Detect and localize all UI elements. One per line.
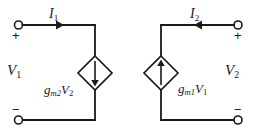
right-source-control-subscript: 1	[203, 87, 207, 97]
left-source-control-symbol: V	[61, 82, 69, 97]
left-voltage-symbol: V	[7, 62, 16, 78]
right-dependent-source-label: gm1V1	[178, 82, 207, 97]
left-port-minus-sign: −	[12, 103, 20, 116]
left-port-group	[15, 21, 113, 125]
right-source-control-symbol: V	[195, 81, 203, 96]
right-voltage-subscript: 2	[234, 69, 239, 80]
right-current-label: I2	[190, 7, 199, 23]
right-current-subscript: 2	[195, 13, 200, 23]
left-source-control-subscript: 2	[69, 88, 73, 98]
left-port-voltage-label: V1	[7, 63, 21, 80]
left-port-plus-sign: +	[12, 29, 20, 42]
right-port-voltage-label: V2	[225, 63, 239, 80]
right-port-plus-sign: +	[234, 29, 242, 42]
right-port-minus-sign: −	[234, 103, 242, 116]
circuit-schematic-canvas	[0, 0, 257, 138]
left-current-label: I1	[49, 7, 58, 23]
right-bottom-terminal-icon	[234, 116, 242, 124]
left-voltage-subscript: 1	[16, 69, 21, 80]
right-source-gain-subscript: m1	[185, 87, 195, 97]
left-bottom-terminal-icon	[15, 116, 23, 124]
left-current-subscript: 1	[54, 13, 59, 23]
circuit-diagram: I1 I2 V1 V2 gm2V2 gm1V1 + − + −	[0, 0, 257, 138]
right-voltage-symbol: V	[225, 62, 234, 78]
left-source-gain-subscript: m2	[51, 88, 61, 98]
left-dependent-source-label: gm2V2	[44, 83, 73, 98]
